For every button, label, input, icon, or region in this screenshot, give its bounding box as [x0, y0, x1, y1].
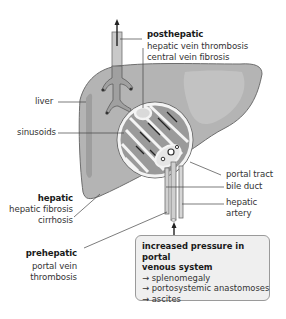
consequence-item: → splenomegaly [142, 273, 263, 284]
hepatic-title: hepatic [38, 193, 73, 204]
portal-tract-label: portal tract [226, 169, 273, 180]
posthepatic-title: posthepatic [147, 29, 203, 40]
posthepatic-cause-1: hepatic vein thrombosis [147, 41, 248, 52]
consequences-title-1: increased pressure in portal [142, 241, 263, 262]
consequences-title-2: venous system [142, 262, 263, 273]
prehepatic-cause-2: thrombosis [30, 272, 77, 283]
liver-label: liver [35, 96, 53, 107]
prehepatic-title: prehepatic [26, 248, 77, 259]
hepatic-artery-label-1: hepatic [226, 197, 257, 208]
consequence-item: → ascites [142, 294, 263, 305]
bile-duct-label: bile duct [226, 181, 262, 192]
sinusoids-label: sinusoids [17, 127, 56, 138]
consequences-box: increased pressure in portal venous syst… [135, 235, 270, 301]
hepatic-artery-label-2: artery [226, 208, 251, 219]
posthepatic-cause-2: central vein fibrosis [147, 52, 229, 63]
portal-hypertension-diagram: posthepatic hepatic vein thrombosis cent… [0, 0, 286, 319]
consequence-item: → portosystemic anastomoses [142, 283, 263, 294]
hepatic-cause-2: cirrhosis [38, 215, 73, 226]
prehepatic-cause-1: portal vein [32, 261, 77, 272]
hepatic-cause-1: hepatic fibrosis [9, 204, 73, 215]
portal-vessels [165, 162, 183, 221]
liver-shading [86, 94, 92, 178]
